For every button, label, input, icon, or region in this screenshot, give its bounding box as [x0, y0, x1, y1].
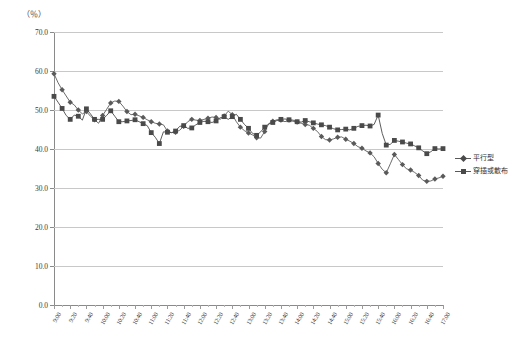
data-point-square: [303, 118, 308, 123]
data-point-diamond: [189, 117, 194, 122]
data-point-square: [165, 130, 170, 135]
data-point-diamond: [375, 161, 380, 166]
data-point-square: [68, 117, 73, 122]
data-point-square: [384, 143, 389, 148]
series-plot-layer: [0, 0, 527, 343]
legend-item-1[interactable]: 穿插或散布: [455, 165, 508, 178]
data-point-square: [351, 126, 356, 131]
data-point-square: [84, 106, 89, 111]
data-point-diamond: [51, 71, 56, 76]
data-point-square: [133, 117, 138, 122]
data-point-square: [262, 125, 267, 130]
data-point-diamond: [59, 87, 64, 92]
data-point-square: [368, 124, 373, 129]
data-point-square: [116, 119, 121, 124]
data-point-diamond: [424, 179, 429, 184]
legend-item-0[interactable]: 平行型: [455, 152, 508, 165]
data-point-square: [230, 114, 235, 119]
data-point-square: [246, 126, 251, 131]
data-point-square: [392, 138, 397, 143]
data-point-square: [76, 114, 81, 119]
line-chart: （％） 0.010.020.030.040.050.060.070.0 9:00…: [0, 0, 527, 343]
data-point-square: [181, 123, 186, 128]
data-point-square: [52, 94, 57, 99]
data-point-square: [376, 113, 381, 118]
data-point-square: [238, 117, 243, 122]
data-point-square: [149, 130, 154, 135]
data-point-diamond: [440, 174, 445, 179]
data-point-square: [92, 117, 97, 122]
data-point-square: [125, 119, 130, 124]
data-point-square: [279, 117, 284, 122]
data-point-diamond: [408, 167, 413, 172]
data-point-square: [441, 146, 446, 151]
data-point-square: [319, 122, 324, 127]
data-point-square: [424, 151, 429, 156]
data-point-square: [189, 126, 194, 131]
data-point-diamond: [108, 100, 113, 105]
data-point-diamond: [157, 121, 162, 126]
data-point-square: [254, 133, 259, 138]
data-point-square: [327, 125, 332, 130]
data-point-square: [433, 146, 438, 151]
data-point-square: [197, 120, 202, 125]
data-point-diamond: [149, 119, 154, 124]
legend-marker-diamond-icon: [455, 154, 471, 163]
data-point-square: [206, 119, 211, 124]
data-point-diamond: [68, 100, 73, 105]
data-point-square: [311, 120, 316, 125]
data-point-diamond: [327, 137, 332, 142]
data-point-diamond: [432, 176, 437, 181]
data-point-square: [287, 117, 292, 122]
data-point-square: [60, 106, 65, 111]
data-point-square: [173, 129, 178, 134]
data-point-square: [408, 142, 413, 147]
data-point-diamond: [132, 112, 137, 117]
data-point-square: [360, 123, 365, 128]
data-point-square: [100, 117, 105, 122]
data-point-diamond: [359, 146, 364, 151]
data-point-diamond: [335, 135, 340, 140]
data-point-square: [416, 145, 421, 150]
data-point-square: [295, 119, 300, 124]
data-point-square: [108, 108, 113, 113]
data-point-diamond: [343, 137, 348, 142]
legend-marker-square-icon: [455, 167, 471, 176]
legend-label-0: 平行型: [473, 152, 494, 165]
data-point-square: [343, 127, 348, 132]
data-point-square: [270, 120, 275, 125]
data-point-square: [141, 121, 146, 126]
data-point-square: [335, 127, 340, 132]
data-point-square: [222, 114, 227, 119]
legend-label-1: 穿插或散布: [473, 165, 508, 178]
data-point-square: [157, 141, 162, 146]
data-point-square: [400, 140, 405, 145]
data-point-diamond: [140, 115, 145, 120]
data-point-square: [214, 119, 219, 124]
chart-legend: 平行型 穿插或散布: [455, 152, 508, 178]
